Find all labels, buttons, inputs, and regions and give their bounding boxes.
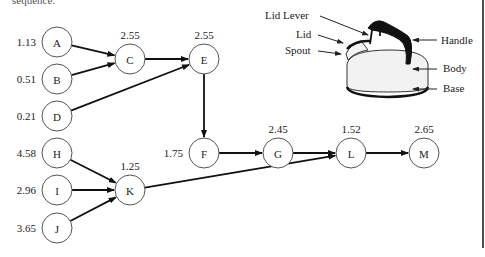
edge-b-c — [71, 63, 114, 75]
edge-k-l — [145, 156, 335, 188]
node-label: A — [53, 37, 61, 49]
node-duration: 0.51 — [17, 73, 36, 85]
kettle-label-spout: Spout — [285, 44, 311, 56]
node-duration: 0.21 — [17, 110, 36, 122]
precedence-network-diagram: A1.13B0.51D0.21C2.55E2.55F1.75G2.45L1.52… — [0, 0, 485, 257]
node-e: E2.55 — [189, 29, 219, 74]
node-m: M2.65 — [409, 123, 439, 168]
node-duration: 1.13 — [17, 36, 37, 48]
kettle-illustration: Lid Lever Lid Spout Handle Body Base — [265, 9, 473, 97]
node-k: K1.25 — [115, 160, 145, 205]
node-d: D0.21 — [17, 101, 72, 131]
node-label: G — [274, 148, 282, 160]
node-duration: 2.55 — [120, 29, 140, 41]
node-duration: 2.96 — [17, 184, 37, 196]
arrow-spout — [318, 51, 341, 54]
kettle-label-body: Body — [443, 62, 467, 74]
node-a: A1.13 — [17, 27, 72, 57]
node-i: I2.96 — [17, 175, 72, 205]
node-label: J — [55, 223, 60, 235]
kettle-body-shape — [347, 50, 428, 92]
node-g: G2.45 — [263, 123, 293, 168]
edge-j-k — [70, 197, 116, 221]
node-label: M — [419, 148, 429, 160]
node-label: F — [201, 148, 207, 160]
node-duration: 1.25 — [120, 160, 140, 172]
arrow-lid — [318, 35, 343, 43]
node-label: H — [53, 148, 61, 160]
node-label: B — [53, 74, 60, 86]
node-label: L — [348, 148, 355, 160]
node-duration: 4.58 — [17, 147, 37, 159]
node-duration: 2.45 — [268, 123, 288, 135]
kettle-label-lid: Lid — [296, 28, 312, 40]
node-duration: 1.75 — [164, 147, 184, 159]
node-c: C2.55 — [115, 29, 145, 74]
node-j: J3.65 — [17, 213, 72, 243]
kettle-label-lid-lever: Lid Lever — [265, 9, 309, 21]
node-b: B0.51 — [17, 64, 72, 94]
node-f: F1.75 — [164, 138, 219, 168]
node-h: H4.58 — [17, 138, 72, 168]
kettle-label-base: Base — [443, 82, 465, 94]
arrow-lid-lever — [320, 16, 368, 35]
node-duration: 2.55 — [194, 29, 214, 41]
node-l: L1.52 — [336, 123, 366, 168]
node-duration: 3.65 — [17, 222, 37, 234]
node-duration: 1.52 — [341, 123, 360, 135]
node-label: D — [53, 111, 61, 123]
node-label: K — [126, 185, 134, 197]
node-label: E — [201, 54, 208, 66]
node-duration: 2.65 — [414, 123, 434, 135]
node-label: C — [126, 54, 133, 66]
edge-a-c — [72, 45, 115, 55]
edge-h-k — [70, 160, 115, 183]
kettle-label-handle: Handle — [441, 34, 473, 46]
node-label: I — [55, 185, 59, 197]
